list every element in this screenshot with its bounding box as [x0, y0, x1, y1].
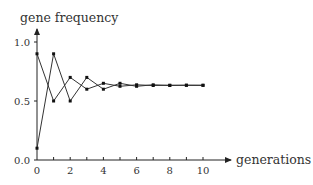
data-point [119, 85, 122, 88]
y-tick-1.0: 1.0 [14, 37, 30, 48]
x-tick-2: 2 [67, 165, 73, 176]
data-point [185, 84, 188, 87]
x-axis-title: generations [236, 152, 311, 167]
series-layer [36, 52, 205, 149]
data-point [52, 100, 55, 103]
data-point [85, 88, 88, 91]
data-point [202, 84, 205, 87]
data-point [152, 83, 155, 86]
x-tick-4: 4 [100, 165, 106, 176]
data-point [69, 76, 72, 79]
data-point [102, 82, 105, 85]
data-point [69, 100, 72, 103]
data-point [36, 147, 39, 150]
y-tick-0.5: 0.5 [14, 96, 30, 107]
y-tick-0.0: 0.0 [14, 155, 30, 166]
data-point [85, 76, 88, 79]
x-tick-6: 6 [133, 165, 139, 176]
data-point [168, 84, 171, 87]
chart: 1.0 0.5 0.0 0 2 4 6 8 10 gene frequency … [0, 0, 313, 185]
x-tick-0: 0 [34, 165, 40, 176]
y-axis-title: gene frequency [20, 10, 119, 25]
data-point [119, 82, 122, 85]
data-point [36, 52, 39, 55]
x-tick-8: 8 [167, 165, 173, 176]
series-b-line [37, 54, 203, 148]
data-point [135, 85, 138, 88]
x-tick-10: 10 [197, 165, 210, 176]
data-point [102, 88, 105, 91]
data-point [52, 52, 55, 55]
